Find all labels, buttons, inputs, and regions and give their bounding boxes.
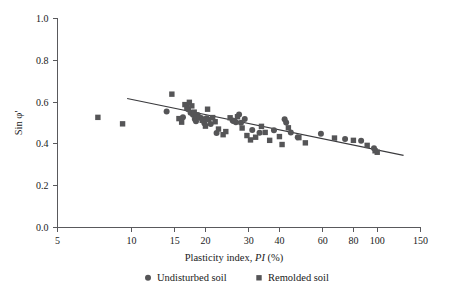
y-axis-tick-label: 0.4 [36, 138, 49, 149]
y-axis-title: Sin φ' [13, 111, 24, 136]
x-axis-tick-label: 60 [318, 235, 328, 246]
legend-marker-square [256, 275, 261, 280]
data-point-remolded [375, 150, 380, 155]
data-point-remolded [286, 125, 291, 130]
y-axis-tick-label: 0.6 [36, 97, 49, 108]
data-point-remolded [216, 126, 221, 131]
data-point-remolded [303, 140, 308, 145]
data-point-remolded [364, 143, 369, 148]
data-point-remolded [267, 138, 272, 143]
x-axis-tick-label: 10 [126, 235, 136, 246]
data-point-remolded [184, 105, 189, 110]
data-point-remolded [296, 135, 301, 140]
x-axis-tick-label: 40 [274, 235, 284, 246]
data-point-remolded [235, 114, 240, 119]
data-point-remolded [248, 137, 253, 142]
trend-line-segment [127, 99, 403, 156]
data-point-remolded [200, 118, 205, 123]
data-point-remolded [279, 142, 284, 147]
y-axis-tick-label: 1.0 [36, 13, 49, 24]
x-axis-tick-label: 5 [55, 235, 60, 246]
data-point-remolded [95, 115, 100, 120]
data-point-undisturbed [283, 120, 289, 126]
data-point-remolded [120, 121, 125, 126]
data-point-remolded [203, 123, 208, 128]
chart-legend: Undisturbed soilRemolded soil [145, 272, 329, 283]
data-point-remolded [332, 135, 337, 140]
data-point-remolded [277, 134, 282, 139]
data-point-undisturbed [249, 127, 255, 133]
data-point-remolded [262, 130, 267, 135]
axis-labels-group: 5101520304060801001500.00.20.40.60.81.0P… [13, 13, 428, 264]
legend-marker-circle [145, 275, 151, 281]
y-axis-tick-label: 0.0 [36, 222, 49, 233]
data-point-undisturbed [271, 127, 277, 133]
data-point-undisturbed [342, 136, 348, 142]
x-axis-tick-label: 150 [413, 235, 428, 246]
x-axis-tick-label: 15 [170, 235, 180, 246]
chart-canvas: 5101520304060801001500.00.20.40.60.81.0P… [0, 0, 450, 295]
x-axis-title: Plasticity index, PI (%) [185, 252, 284, 264]
legend-label: Undisturbed soil [157, 272, 227, 283]
data-point-remolded [223, 129, 228, 134]
data-point-remolded [189, 103, 194, 108]
x-axis-tick-label: 20 [200, 235, 210, 246]
y-axis-tick-label: 0.2 [36, 180, 49, 191]
data-point-remolded [179, 119, 184, 124]
data-point-undisturbed [358, 138, 364, 144]
axes-group [53, 19, 421, 233]
trend-line [127, 99, 403, 156]
data-point-remolded [212, 119, 217, 124]
scatter-chart-figure: 5101520304060801001500.00.20.40.60.81.0P… [0, 0, 450, 295]
y-axis-tick-label: 0.8 [36, 55, 49, 66]
data-point-remolded [253, 135, 258, 140]
data-point-remolded [205, 107, 210, 112]
x-axis-tick-label: 80 [348, 235, 358, 246]
data-point-undisturbed [318, 131, 324, 137]
data-point-remolded [169, 91, 174, 96]
data-point-remolded [259, 124, 264, 129]
data-point-remolded [239, 125, 244, 130]
data-point-undisturbed [164, 109, 170, 115]
x-axis-tick-label: 100 [370, 235, 385, 246]
data-point-undisturbed [242, 116, 248, 122]
x-axis-tick-label: 30 [244, 235, 254, 246]
legend-label: Remolded soil [268, 272, 329, 283]
data-point-remolded [351, 138, 356, 143]
